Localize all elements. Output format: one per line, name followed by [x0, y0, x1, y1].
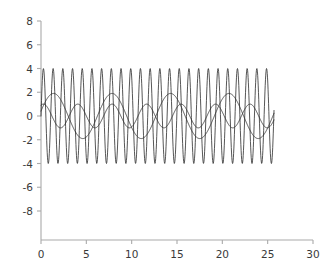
y-tick-label: 4	[1, 64, 33, 75]
x-tick-label: 25	[253, 249, 283, 260]
y-tick-label: 6	[1, 40, 33, 51]
axis-spines	[41, 21, 313, 240]
y-tick-label: 0	[1, 111, 33, 122]
y-tick-label: -2	[1, 135, 33, 146]
x-tick-label: 30	[298, 249, 328, 260]
x-tick-label: 15	[162, 249, 192, 260]
x-tick-label: 0	[26, 249, 56, 260]
series-line-fast-oscillation	[41, 69, 274, 164]
y-tick-label: 8	[1, 16, 33, 27]
plot-area	[0, 0, 331, 271]
x-tick-label: 10	[117, 249, 147, 260]
y-tick-label: -6	[1, 182, 33, 193]
x-tick-label: 20	[207, 249, 237, 260]
axis-ticks	[37, 21, 313, 244]
y-tick-label: -4	[1, 159, 33, 170]
chart-canvas	[0, 0, 331, 271]
chart-figure: -8-6-4-202468051015202530	[0, 0, 331, 271]
x-tick-label: 5	[71, 249, 101, 260]
y-tick-label: 2	[1, 87, 33, 98]
y-tick-label: -8	[1, 206, 33, 217]
